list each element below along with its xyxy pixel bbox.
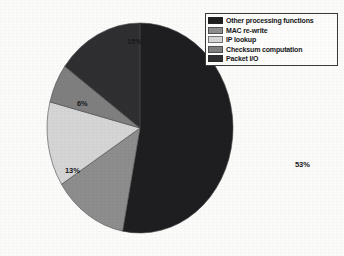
legend-item-label: MAC re-write bbox=[226, 26, 267, 35]
legend-item-label: Other processing functions bbox=[226, 16, 314, 25]
legend-item-label: Checksum computation bbox=[226, 45, 302, 54]
legend-item-label: IP lookup bbox=[226, 35, 256, 44]
legend-swatch bbox=[208, 46, 223, 53]
slice-label-other-processing-functions: 53% bbox=[295, 161, 310, 169]
slice-label-checksum-computation: 6% bbox=[77, 100, 88, 108]
legend-item: MAC re-write bbox=[208, 26, 334, 35]
slice-label-ip-lookup: 13% bbox=[65, 167, 80, 175]
legend-swatch bbox=[208, 36, 223, 43]
legend-swatch bbox=[208, 55, 223, 62]
legend-item-label: Packet I/O bbox=[226, 54, 258, 63]
chart-legend: Other processing functionsMAC re-writeIP… bbox=[205, 13, 338, 66]
legend-item: Packet I/O bbox=[208, 54, 334, 63]
slice-label-packet-io: 15% bbox=[127, 38, 142, 46]
legend-swatch bbox=[208, 27, 223, 34]
chart-screenshot: 15% 6% 13% 13% 53% Other processing func… bbox=[0, 0, 344, 256]
legend-item: IP lookup bbox=[208, 35, 334, 44]
legend-swatch bbox=[208, 17, 223, 24]
legend-item: Other processing functions bbox=[208, 16, 334, 25]
legend-item: Checksum computation bbox=[208, 45, 334, 54]
